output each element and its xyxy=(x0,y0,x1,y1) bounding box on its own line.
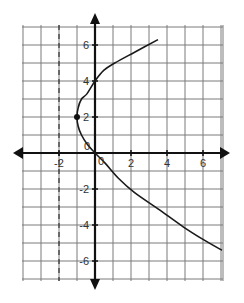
x-tick-label: 4 xyxy=(164,157,170,169)
vertex-point xyxy=(74,114,80,120)
origin-label-upper: 0 xyxy=(84,140,90,152)
x-tick-label: -2 xyxy=(54,157,64,169)
arrow-right-icon xyxy=(220,147,230,159)
origin-label-lower: 0 xyxy=(98,155,104,167)
axes xyxy=(13,13,230,290)
y-tick-label: 4 xyxy=(83,75,89,87)
y-tick-label: -2 xyxy=(79,183,89,195)
arrow-up-icon xyxy=(90,13,100,24)
arrow-down-icon xyxy=(90,279,100,290)
x-tick-label: 6 xyxy=(200,157,206,169)
y-tick-label: 6 xyxy=(83,39,89,51)
y-tick-label: 2 xyxy=(83,111,89,123)
arrow-left-icon xyxy=(13,147,23,159)
y-tick-label: -6 xyxy=(79,255,89,267)
x-tick-label: 2 xyxy=(128,157,134,169)
y-tick-label: -4 xyxy=(79,219,89,231)
coordinate-plane-chart: -2246642-2-4-6 0 0 xyxy=(0,0,244,303)
